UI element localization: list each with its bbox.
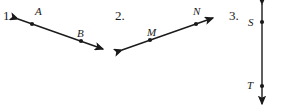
point-label-t: T xyxy=(247,80,253,91)
point-label-n: N xyxy=(193,6,200,17)
point-T-dot xyxy=(260,84,264,88)
point-label-b: B xyxy=(77,28,84,39)
geometry-figure-sheet: 1. 2. 3. A B M N S T xyxy=(0,0,284,109)
point-B-dot xyxy=(79,39,83,43)
figures-canvas xyxy=(0,0,284,109)
figure-number-1: 1. xyxy=(3,9,13,22)
point-M-dot xyxy=(148,38,152,42)
point-S-dot xyxy=(260,20,264,24)
figure-3-line-ST xyxy=(260,4,264,104)
point-label-s: S xyxy=(248,17,254,28)
figure-number-2: 2. xyxy=(115,9,125,22)
figure-2-line-MN xyxy=(122,18,213,50)
point-label-m: M xyxy=(147,27,156,38)
figure-1-line-AB xyxy=(18,19,103,49)
point-N-dot xyxy=(194,22,198,26)
line-MN xyxy=(122,18,213,50)
point-label-a: A xyxy=(35,6,42,17)
figure-number-3: 3. xyxy=(229,9,239,22)
point-A-dot xyxy=(30,22,34,26)
